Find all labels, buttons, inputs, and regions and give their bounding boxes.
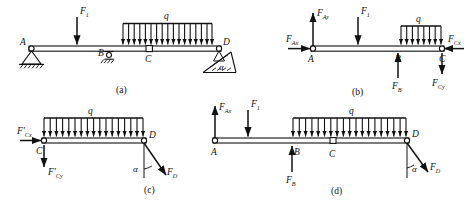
label-point-d-d: D [411, 129, 419, 139]
label-f1-a: F1 [79, 6, 89, 18]
panel-label-c: (c) [144, 185, 155, 196]
label-fcx-prime-c: F'Cx [16, 126, 32, 138]
distributed-load-c [44, 118, 143, 136]
beam-a [29, 46, 221, 51]
beam-b [310, 46, 444, 51]
label-point-d-c: D [148, 130, 156, 140]
label-alpha-a: α [219, 62, 224, 72]
label-fcy-prime-c: F'Cy [47, 167, 63, 179]
label-f1-b: F1 [360, 6, 370, 18]
beam-d [212, 138, 409, 144]
label-fax-d: FAx [218, 102, 232, 114]
label-point-c: C [145, 54, 152, 64]
panel-a: A B C F1 [19, 6, 236, 96]
label-alpha-c: α [133, 164, 138, 174]
beam-c [41, 138, 146, 143]
label-fb-b: FB [391, 81, 402, 93]
label-point-c-d: C [329, 149, 336, 159]
force-fd-c [144, 143, 166, 178]
label-point-b: B [98, 48, 104, 58]
label-point-a-d: A [210, 147, 217, 157]
panel-label-a: (a) [116, 85, 127, 96]
label-point-a: A [19, 37, 26, 47]
label-q-d: q [349, 106, 354, 116]
figure-canvas: A B C F1 [0, 0, 464, 203]
label-point-d-a: D [222, 37, 230, 47]
label-fay-b: FAy [316, 8, 329, 20]
label-fb-d: FB [285, 175, 296, 187]
label-q-a: q [164, 11, 169, 21]
distributed-load-b [401, 26, 441, 44]
panel-d: A B C D FAx F1 FB [210, 99, 441, 197]
internal-hinge-c [146, 46, 152, 52]
label-alpha-d: α [412, 164, 417, 174]
label-fax-b: FAx [285, 34, 299, 46]
label-fd-d: FD [429, 162, 441, 174]
panel-b: A C B FAx FAy F1 [285, 6, 464, 98]
distributed-load-d [293, 118, 406, 136]
label-f1-d: F1 [250, 99, 260, 111]
label-q-c: q [88, 106, 93, 116]
label-fcy-b: FCy [431, 78, 445, 90]
label-q-b: q [416, 14, 421, 24]
distributed-load-a [123, 24, 212, 45]
panel-label-b: (b) [352, 87, 363, 98]
panel-label-d: (d) [331, 186, 342, 197]
panel-c: C D F'Cx F'Cy [16, 106, 178, 196]
mechanics-figure: A B C F1 [0, 0, 464, 203]
force-fd-d [407, 143, 428, 178]
label-fcx-b: FCx [447, 34, 461, 46]
label-point-a-b: A [307, 54, 314, 64]
label-fd-c: FD [166, 167, 178, 179]
label-point-b-d: B [294, 147, 300, 157]
label-point-c-c: C [36, 146, 43, 156]
